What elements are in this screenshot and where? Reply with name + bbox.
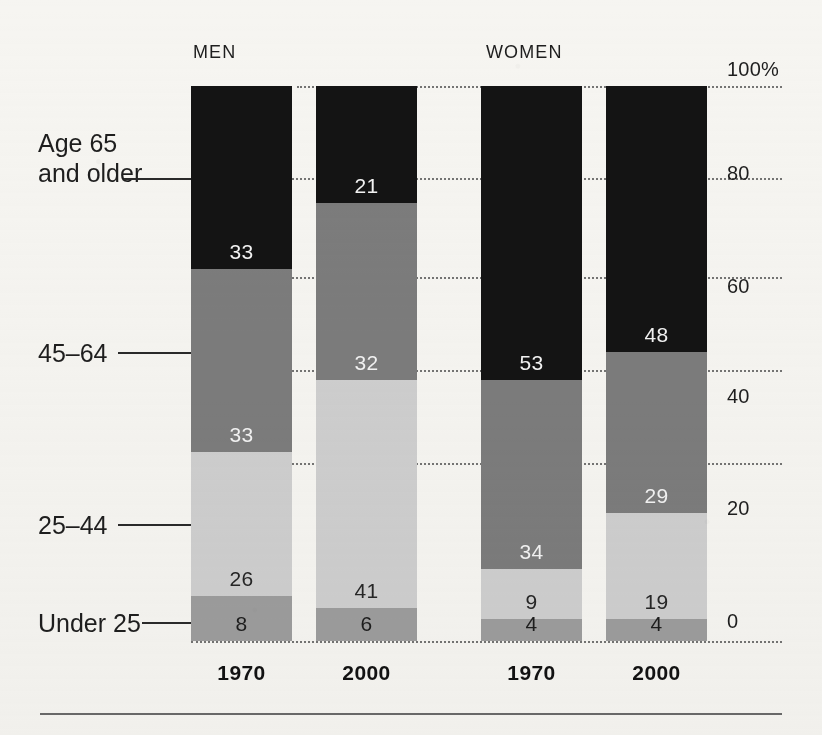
bar-segment-value: 48	[645, 324, 669, 352]
bar-segment-45-64[interactable]: 29	[606, 352, 707, 513]
bar-segment-value: 33	[230, 424, 254, 452]
bar-segment-25-44[interactable]: 41	[316, 380, 417, 608]
leader-line-25-44	[118, 524, 191, 526]
bar-segment-age-65-and-older[interactable]: 33	[191, 86, 292, 269]
bar-segment-under-25[interactable]: 6	[316, 608, 417, 641]
bar-segment-value: 53	[520, 352, 544, 380]
axis-tick-20: 20	[727, 497, 750, 520]
bar-segment-45-64[interactable]: 32	[316, 203, 417, 380]
x-axis-label-women-2000: 2000	[606, 661, 707, 685]
bar-segment-value: 21	[355, 175, 379, 203]
bar-segment-age-65-and-older[interactable]: 48	[606, 86, 707, 352]
bar-segment-value: 8	[236, 613, 248, 641]
axis-tick-80: 80	[727, 162, 750, 185]
bar-segment-value: 4	[526, 613, 538, 641]
bar-segment-value: 33	[230, 241, 254, 269]
bar-segment-25-44[interactable]: 26	[191, 452, 292, 596]
group-title-women: WOMEN	[486, 42, 563, 63]
axis-tick-40: 40	[727, 385, 750, 408]
bottom-rule	[40, 713, 782, 715]
stacked-bar-chart: 100% 80 60 40 20 0 MEN WOMEN Age 65 and …	[0, 0, 822, 735]
bar-segment-age-65-and-older[interactable]: 21	[316, 86, 417, 203]
axis-tick-0: 0	[727, 610, 738, 633]
bar-segment-under-25[interactable]: 4	[606, 619, 707, 641]
bar-segment-under-25[interactable]: 4	[481, 619, 582, 641]
bar-segment-age-65-and-older[interactable]: 53	[481, 86, 582, 380]
bar-segment-45-64[interactable]: 33	[191, 269, 292, 452]
bar-women-1970[interactable]: 53 34 9 4	[481, 86, 582, 641]
bar-segment-25-44[interactable]: 19	[606, 513, 707, 619]
bar-segment-value: 26	[230, 568, 254, 596]
bar-men-2000[interactable]: 21 32 41 6	[316, 86, 417, 641]
axis-tick-100: 100%	[727, 58, 779, 81]
bar-segment-under-25[interactable]: 8	[191, 596, 292, 641]
leader-line-under-25	[142, 622, 191, 624]
bar-segment-value: 4	[651, 613, 663, 641]
group-title-men: MEN	[193, 42, 236, 63]
bar-segment-value: 32	[355, 352, 379, 380]
x-axis-label-men-2000: 2000	[316, 661, 417, 685]
bar-women-2000[interactable]: 48 29 19 4	[606, 86, 707, 641]
bar-segment-value: 34	[520, 541, 544, 569]
bar-segment-value: 6	[361, 613, 373, 641]
leader-line-age-65-and-older	[124, 178, 191, 180]
x-axis-label-men-1970: 1970	[191, 661, 292, 685]
leader-line-45-64	[118, 352, 191, 354]
axis-tick-60: 60	[727, 275, 750, 298]
bar-men-1970[interactable]: 33 33 26 8	[191, 86, 292, 641]
x-axis-label-women-1970: 1970	[481, 661, 582, 685]
bar-segment-45-64[interactable]: 34	[481, 380, 582, 569]
gridline-0	[191, 641, 782, 643]
bar-segment-value: 41	[355, 580, 379, 608]
bar-segment-value: 29	[645, 485, 669, 513]
